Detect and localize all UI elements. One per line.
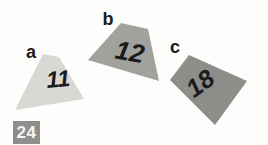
shape-a-letter-label: a: [26, 42, 37, 62]
page-number-text: 24: [17, 123, 37, 143]
shape-b-letter-label: b: [103, 9, 114, 29]
shape-b-number-group: 12: [113, 35, 147, 70]
shape-a-number-group: 11: [45, 65, 71, 93]
shapes-canvas: a b c 11 12 18: [0, 0, 268, 145]
shape-b-number: 12: [113, 35, 147, 70]
scanned-figure-page: a b c 11 12 18 24: [0, 0, 268, 145]
shape-a-number: 11: [45, 65, 71, 93]
page-number-badge: 24: [13, 121, 40, 144]
shape-c-letter-label: c: [170, 37, 180, 57]
